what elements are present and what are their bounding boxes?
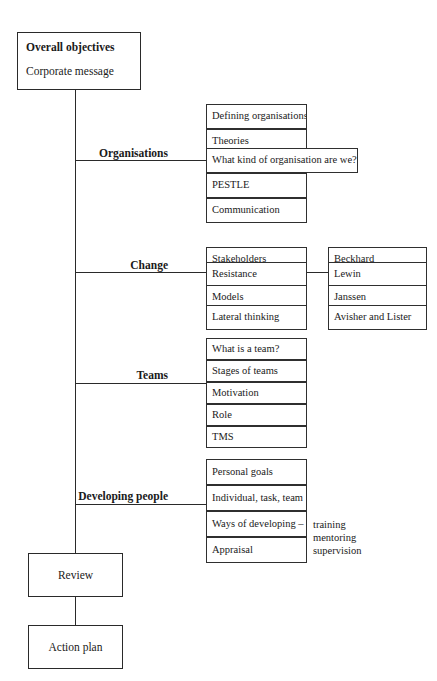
connector-review-to-action-plan	[75, 597, 76, 625]
item-box: Lewin	[328, 262, 427, 287]
item-box: Stages of teams	[206, 360, 307, 382]
item-box: What is a team?	[206, 338, 307, 360]
item-box: Resistance	[206, 262, 307, 287]
section-label-organisations: Organisations	[38, 147, 168, 159]
item-box: Personal goals	[206, 459, 307, 485]
item-box: Lateral thinking	[206, 305, 307, 330]
flow-node-action-plan-label: Action plan	[49, 641, 103, 653]
item-box: What kind of organisation are we?	[206, 148, 358, 173]
developing-people-annotation: training mentoring supervision	[313, 518, 361, 557]
item-box: Role	[206, 404, 307, 426]
item-box: Avisher and Lister	[328, 305, 427, 330]
section-label-change: Change	[38, 259, 168, 271]
flow-node-action-plan: Action plan	[28, 625, 123, 669]
branch-line-organisations	[75, 160, 207, 161]
branch-line-change-second-column	[307, 272, 329, 273]
item-box: Appraisal	[206, 537, 307, 563]
item-box: Motivation	[206, 382, 307, 404]
root-node-overall-objectives: Overall objectives Corporate message	[17, 32, 141, 90]
section-label-teams: Teams	[38, 369, 168, 381]
root-title: Overall objectives	[26, 40, 132, 54]
item-box: PESTLE	[206, 173, 307, 198]
root-subtitle: Corporate message	[26, 64, 132, 78]
item-box: Ways of developing –	[206, 511, 307, 537]
item-box: Defining organisations	[206, 104, 307, 129]
section-label-developing-people: Developing people	[28, 490, 168, 502]
flow-node-review-label: Review	[58, 569, 93, 581]
item-box: Communication	[206, 198, 307, 223]
objectives-tree-diagram: Overall objectives Corporate message Org…	[0, 0, 437, 681]
item-box: TMS	[206, 426, 307, 448]
flow-node-review: Review	[28, 553, 123, 597]
branch-line-developing-people	[75, 504, 207, 505]
branch-line-teams	[75, 383, 207, 384]
branch-line-change	[75, 272, 207, 273]
item-box: Individual, task, team	[206, 485, 307, 511]
